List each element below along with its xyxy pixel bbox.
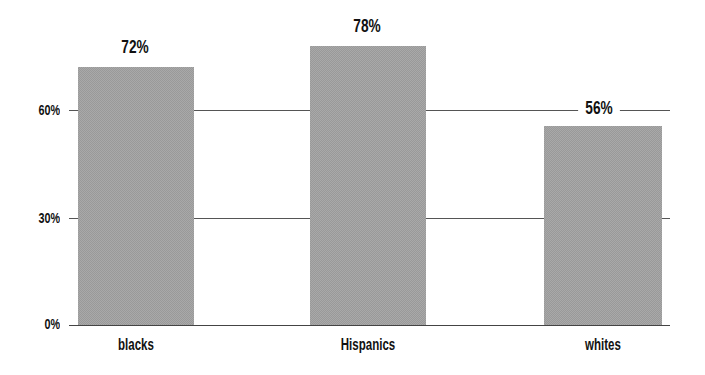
value-label-whites: 56% [578, 98, 620, 118]
ytick-label-30: 30% [31, 210, 60, 226]
value-label-blacks: 72% [114, 37, 156, 57]
category-label-whites: whites [567, 336, 639, 354]
category-label-blacks: blacks [100, 336, 172, 354]
bar-chart: 60% 30% 0% 72% 78% 56% blacks Hispanics … [0, 0, 705, 375]
bar-hispanics [310, 46, 426, 325]
ytick-label-60: 60% [31, 102, 60, 118]
value-label-hispanics: 78% [346, 16, 388, 36]
bar-blacks [78, 67, 194, 325]
x-axis-baseline [69, 325, 670, 326]
ytick-label-0: 0% [31, 316, 60, 332]
category-label-hispanics: Hispanics [332, 336, 404, 354]
bar-whites [544, 126, 662, 325]
